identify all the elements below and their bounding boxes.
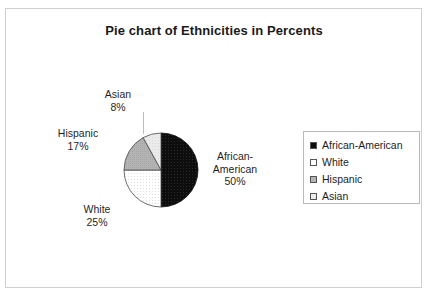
pie-label-african-american: African-American 50% — [196, 150, 274, 188]
legend-item-hispanic: Hispanic — [310, 171, 419, 187]
pie-label-white-percent: 25% — [70, 216, 124, 229]
pie-label-hispanic-name: Hispanic — [58, 127, 98, 139]
pie-label-african-american-name: African-American — [213, 150, 257, 175]
legend-label-african-american: African-American — [322, 139, 403, 151]
legend-item-asian: Asian — [310, 188, 419, 204]
pie-label-hispanic-percent: 17% — [46, 140, 110, 153]
legend-swatch-asian — [310, 193, 317, 200]
legend-swatch-hispanic — [310, 176, 317, 183]
pie-label-hispanic: Hispanic 17% — [46, 127, 110, 152]
legend-label-white: White — [322, 156, 349, 168]
legend-item-african-american: African-American — [310, 137, 419, 153]
pie-svg — [122, 131, 200, 209]
pie-label-asian-percent: 8% — [92, 101, 144, 114]
chart-page: Pie chart of Ethnicities in Percents — [0, 0, 428, 298]
pie-slice-white — [124, 170, 161, 207]
legend-swatch-white — [310, 159, 317, 166]
chart-legend: African-American White Hispanic Asian — [303, 131, 420, 204]
pie-label-asian-name: Asian — [105, 88, 131, 100]
legend-swatch-african-american — [310, 142, 317, 149]
legend-label-hispanic: Hispanic — [322, 173, 362, 185]
pie-chart — [122, 131, 200, 209]
pie-label-asian: Asian 8% — [92, 88, 144, 113]
pie-slice-african-american — [161, 133, 198, 207]
chart-title: Pie chart of Ethnicities in Percents — [0, 23, 428, 38]
pie-label-white: White 25% — [70, 203, 124, 228]
legend-item-white: White — [310, 154, 419, 170]
legend-label-asian: Asian — [322, 190, 348, 202]
pie-label-african-american-percent: 50% — [196, 175, 274, 188]
asian-leader-line — [143, 112, 144, 134]
pie-label-white-name: White — [84, 203, 111, 215]
